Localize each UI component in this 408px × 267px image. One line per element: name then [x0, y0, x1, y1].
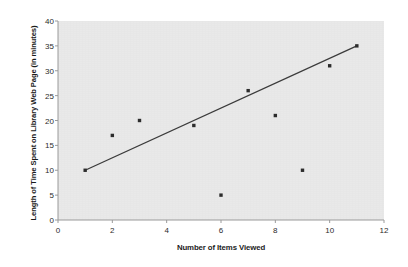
- x-tick-label: 2: [110, 226, 114, 235]
- data-point-marker: [301, 169, 304, 172]
- data-point-marker: [111, 134, 114, 137]
- y-tick-label: 15: [38, 141, 54, 150]
- y-tick-label: 40: [38, 17, 54, 26]
- data-point-marker: [328, 64, 331, 67]
- y-tick-label: 0: [38, 216, 54, 225]
- plot-svg: [58, 21, 384, 220]
- data-point-marker: [192, 124, 195, 127]
- scatter-chart: Length of Time Spent on Library Web Page…: [0, 0, 408, 267]
- y-tick-label: 35: [38, 41, 54, 50]
- x-tick-label: 6: [219, 226, 223, 235]
- y-tick-label: 10: [38, 166, 54, 175]
- x-tick-label: 4: [164, 226, 168, 235]
- trendline: [85, 46, 357, 170]
- data-points: [83, 44, 358, 197]
- data-point-marker: [274, 114, 277, 117]
- x-tick-label: 8: [273, 226, 277, 235]
- x-tick-label: 0: [56, 226, 60, 235]
- y-tick-label: 5: [38, 191, 54, 200]
- data-point-marker: [219, 193, 222, 196]
- plot-area: [58, 21, 384, 220]
- x-axis-title: Number of Items Viewed: [58, 243, 384, 252]
- y-tick-label: 30: [38, 66, 54, 75]
- y-tick-label: 25: [38, 91, 54, 100]
- x-axis-tick-labels: 024681012: [0, 226, 408, 240]
- data-point-marker: [83, 169, 86, 172]
- data-point-marker: [246, 89, 249, 92]
- y-tick-label: 20: [38, 116, 54, 125]
- trendline-segment: [85, 46, 357, 170]
- data-point-marker: [355, 44, 358, 47]
- x-tick-label: 10: [325, 226, 334, 235]
- data-point-marker: [138, 119, 141, 122]
- x-tick-label: 12: [380, 226, 389, 235]
